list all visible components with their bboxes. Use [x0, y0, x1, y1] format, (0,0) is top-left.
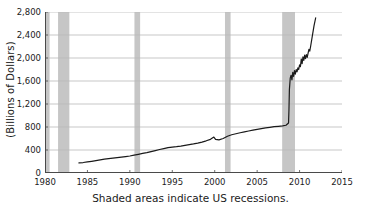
y-axis-tick-label: 1,200: [17, 99, 45, 109]
recession-band: [134, 12, 140, 173]
data-series-line: [79, 18, 316, 163]
y-axis-tick-label: 2,800: [17, 7, 45, 17]
x-axis-tick-label: 1985: [77, 173, 99, 187]
recession-bands: [45, 12, 295, 173]
y-axis-tick-label: 400: [25, 145, 45, 155]
chart-caption: Shaded areas indicate US recessions.: [0, 192, 381, 204]
recession-band: [282, 12, 295, 173]
y-axis-title: (Billions of Dollars): [0, 0, 20, 178]
recession-band: [58, 12, 69, 173]
x-axis-tick-label: 1990: [119, 173, 141, 187]
x-axis-tick-label: 1980: [34, 173, 56, 187]
axes: [45, 12, 342, 173]
y-axis-tick-label: 800: [25, 122, 45, 132]
x-axis-tick-label: 2000: [204, 173, 226, 187]
y-axis-tick-label: 1,600: [17, 76, 45, 86]
y-axis-title-label: (Billions of Dollars): [5, 41, 16, 137]
chart-figure: (Billions of Dollars) 04008001,2001,6002…: [0, 0, 381, 213]
x-axis-tick-label: 2005: [246, 173, 268, 187]
y-axis-tick-label: 2,400: [17, 30, 45, 40]
chart-canvas: [45, 12, 342, 173]
y-axis-tick-label: 2,000: [17, 53, 45, 63]
y-gridlines: [45, 12, 342, 173]
x-axis-tick-label: 2015: [331, 173, 353, 187]
x-axis-tick-label: 2010: [289, 173, 311, 187]
recession-band: [225, 12, 231, 173]
x-axis-tick-label: 1995: [161, 173, 183, 187]
plot-area: 04008001,2001,6002,0002,4002,80019801985…: [45, 12, 342, 173]
